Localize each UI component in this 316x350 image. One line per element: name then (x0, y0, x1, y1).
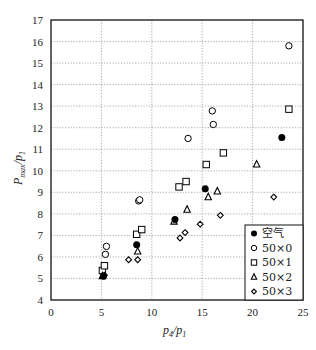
filled-circle-marker (171, 216, 178, 223)
open-circle-marker (137, 197, 143, 203)
open-square-marker (203, 161, 209, 167)
y-tick-label: 13 (32, 100, 44, 112)
open-circle-marker (209, 108, 215, 114)
open-diamond-marker (135, 257, 141, 263)
legend-label: 50×1 (262, 256, 292, 269)
open-diamond-marker (271, 194, 277, 200)
y-tick-label: 16 (32, 36, 44, 48)
open-square-marker (176, 184, 182, 190)
x-axis-ticks: 0510152025 (48, 306, 309, 318)
x-tick-label: 10 (146, 306, 158, 318)
x-tick-label: 0 (48, 306, 54, 318)
y-tick-label: 11 (32, 143, 43, 155)
open-diamond-marker (217, 212, 223, 218)
filled-circle-marker (100, 273, 107, 280)
y-tick-label: 4 (38, 294, 44, 306)
open-circle-marker (210, 121, 216, 127)
open-triangle-marker (205, 193, 211, 199)
x-tick-label: 25 (298, 306, 310, 318)
y-tick-label: 17 (32, 14, 44, 26)
open-square-marker (251, 260, 256, 265)
y-tick-label: 6 (38, 251, 44, 263)
legend-label: 50×2 (262, 271, 292, 284)
open-circle-marker (103, 243, 109, 249)
open-triangle-marker (184, 206, 190, 212)
legend: 空气50×050×150×250×3 (245, 225, 303, 300)
x-tick-label: 5 (99, 306, 105, 318)
y-tick-label: 8 (38, 208, 44, 220)
open-circle-marker (102, 251, 108, 257)
legend-label: 50×0 (262, 242, 292, 255)
y-axis-label: Pmax/p1 (11, 151, 27, 186)
x-axis-label: p4/p1 (162, 323, 186, 339)
open-square-marker (183, 178, 189, 184)
legend-label: 空气 (262, 226, 284, 240)
open-triangle-marker (134, 248, 140, 254)
filled-circle-marker (278, 134, 285, 141)
open-square-marker (286, 106, 292, 112)
scatter-chart: 0510152025 4567891011121314151617 空气50×0… (0, 0, 316, 350)
legend-label: 50×3 (262, 285, 292, 298)
open-diamond-marker (177, 235, 183, 241)
open-diamond-marker (182, 230, 188, 236)
x-tick-label: 20 (247, 306, 259, 318)
open-triangle-marker (214, 188, 220, 194)
series-open-triangle (99, 161, 260, 279)
open-circle-marker (286, 43, 292, 49)
y-tick-label: 10 (32, 165, 44, 177)
y-tick-label: 15 (32, 57, 44, 69)
y-tick-label: 7 (38, 229, 44, 241)
open-circle-marker (185, 135, 191, 141)
open-square-marker (220, 150, 226, 156)
y-tick-label: 5 (38, 272, 44, 284)
x-tick-label: 15 (197, 306, 209, 318)
open-diamond-marker (126, 257, 132, 263)
filled-circle-marker (251, 231, 257, 237)
y-axis-ticks: 4567891011121314151617 (32, 14, 44, 306)
filled-circle-marker (133, 241, 140, 248)
open-square-marker (139, 226, 145, 232)
y-tick-label: 9 (38, 186, 44, 198)
y-tick-label: 12 (32, 122, 43, 134)
open-circle-marker (251, 245, 256, 250)
open-square-marker (101, 263, 107, 269)
open-triangle-marker (253, 161, 259, 167)
filled-circle-marker (202, 185, 209, 192)
y-tick-label: 14 (32, 79, 44, 91)
